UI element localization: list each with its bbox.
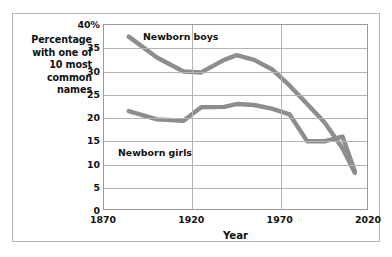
gridline-horizontal (104, 165, 367, 166)
gridline-vertical (192, 25, 193, 209)
gridline-horizontal (104, 188, 367, 189)
annotation-newborn-boys: Newborn boys (143, 31, 218, 42)
y-tick-label: 35 (70, 42, 100, 53)
gridline-horizontal (104, 118, 367, 119)
y-tick-label: 10 (70, 158, 100, 169)
x-axis-ticks: 1870192019702020 (103, 214, 368, 228)
y-tick-label: 15 (70, 135, 100, 146)
y-tick-label: 5 (70, 181, 100, 192)
gridline-horizontal (104, 48, 367, 49)
gridline-horizontal (104, 141, 367, 142)
x-tick-label: 1870 (90, 214, 116, 225)
y-tick-label: 30 (70, 65, 100, 76)
plot-area (103, 24, 368, 210)
gridline-vertical (281, 25, 282, 209)
x-tick-label: 1920 (178, 214, 204, 225)
line-newborn-girls (129, 104, 355, 171)
x-axis-title: Year (103, 230, 368, 241)
y-tick-label: 40% (70, 19, 100, 30)
y-tick-label: 20 (70, 112, 100, 123)
gridline-horizontal (104, 72, 367, 73)
x-tick-label: 1970 (267, 214, 293, 225)
x-tick-label: 2020 (355, 214, 381, 225)
y-tick-label: 25 (70, 88, 100, 99)
gridline-horizontal (104, 95, 367, 96)
annotation-newborn-girls: Newborn girls (118, 147, 192, 158)
y-axis-ticks: 0510152025303540% (66, 24, 100, 210)
chart-figure: Percentage with one of 10 most common na… (0, 0, 392, 257)
